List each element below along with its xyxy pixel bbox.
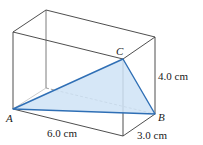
dimension-height: 4.0 cm — [158, 70, 188, 82]
vertex-label-b: B — [158, 111, 165, 123]
vertex-label-c: C — [116, 45, 124, 57]
box-diagram: A B C 4.0 cm 6.0 cm 3.0 cm — [0, 0, 203, 145]
dimension-length: 6.0 cm — [47, 127, 77, 139]
vertex-label-a: A — [5, 112, 13, 124]
dimension-width: 3.0 cm — [137, 129, 167, 141]
box-edges — [13, 10, 155, 136]
triangle-abc — [13, 59, 155, 114]
